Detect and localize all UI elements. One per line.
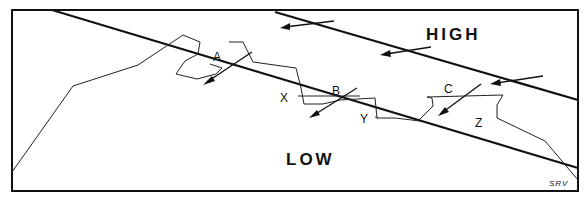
point-label-b: B <box>332 84 340 98</box>
trace-line-segment-y <box>375 117 378 118</box>
high-region-label: HIGH <box>426 25 481 44</box>
low-region-label: LOW <box>286 150 335 169</box>
zone-label-y: Y <box>360 112 368 126</box>
signature-label: SRV <box>549 179 568 188</box>
zone-label-x: X <box>280 91 288 105</box>
point-label-a: A <box>213 50 221 64</box>
trace-line-segment-3 <box>418 95 578 180</box>
zone-label-z: Z <box>475 116 482 130</box>
lower-boundary-line <box>52 10 578 168</box>
trace-line <box>12 35 222 172</box>
diagram-canvas: HIGH LOW A B C X Y Z SRV <box>0 0 586 203</box>
point-label-c: C <box>444 82 453 96</box>
